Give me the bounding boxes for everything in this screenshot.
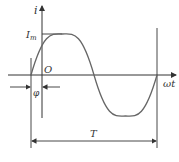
sine-diagram: i Im O ωt φ T [0,0,179,162]
x-axis-label: ωt [163,78,176,89]
phase-label: φ [33,88,40,98]
origin-label: O [44,64,52,75]
amplitude-label: Im [25,29,37,42]
period-label: T [90,128,98,139]
y-axis-label: i [34,4,38,17]
